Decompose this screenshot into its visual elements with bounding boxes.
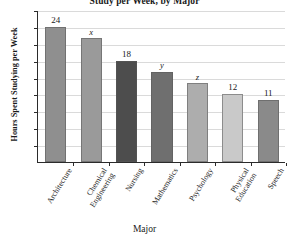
x-axis-title: Major bbox=[0, 224, 289, 234]
x-tick-layer bbox=[38, 11, 285, 162]
x-axis-tick bbox=[109, 163, 110, 166]
x-axis-tick bbox=[144, 163, 145, 166]
x-axis-tick bbox=[286, 163, 287, 166]
x-axis-tick bbox=[180, 163, 181, 166]
chart-title: Study per Week, by Major bbox=[0, 0, 289, 7]
x-axis-tick bbox=[215, 163, 216, 166]
y-axis-title: Hours Spent Studying per Week bbox=[10, 10, 19, 160]
bar-chart: Study per Week, by Major Hours Spent Stu… bbox=[0, 0, 289, 240]
x-axis-tick bbox=[251, 163, 252, 166]
plot-area: 369121518212427 24x18yz1211 bbox=[37, 11, 285, 163]
x-axis-tick bbox=[73, 163, 74, 166]
